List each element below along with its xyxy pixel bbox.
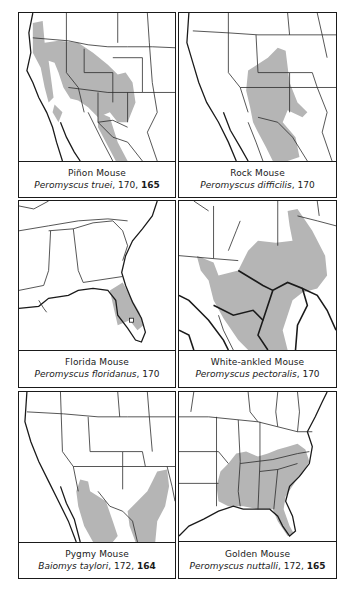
common-name: Pygmy Mouse — [65, 548, 129, 560]
range-map-golden-mouse — [179, 392, 336, 542]
common-name: White-ankled Mouse — [211, 356, 304, 368]
range-map-panel-white-ankled-mouse: White-ankled Mouse Peromyscus pectoralis… — [178, 200, 337, 388]
common-name: Golden Mouse — [225, 548, 290, 560]
text-page-ref: , 170 — [292, 180, 315, 190]
scientific-name: Peromyscus truei — [34, 180, 112, 190]
text-page-ref: , 172, — [278, 561, 307, 571]
scientific-name: Peromyscus floridanus — [35, 369, 137, 379]
range-map-panel-florida-mouse: Florida Mouse Peromyscus floridanus, 170 — [18, 200, 176, 388]
range-map-florida-mouse — [19, 201, 175, 351]
range-map-panel-rock-mouse: Rock Mouse Peromyscus difficilis, 170 — [178, 12, 337, 198]
range-map-pygmy-mouse — [19, 392, 175, 543]
scientific-name-line: Baiomys taylori, 172, 164 — [38, 560, 155, 572]
plate-page-ref: 164 — [137, 561, 156, 571]
plate-page-ref: 165 — [141, 180, 160, 190]
text-page-ref: , 170, — [112, 180, 141, 190]
range-map-rock-mouse — [179, 13, 336, 162]
caption-golden-mouse: Golden Mouse Peromyscus nuttalli, 172, 1… — [179, 541, 336, 578]
scientific-name: Peromyscus nuttalli — [189, 561, 278, 571]
range-map-white-ankled-mouse — [179, 201, 336, 351]
scientific-name-line: Peromyscus truei, 170, 165 — [34, 179, 160, 191]
range-map-panel-pinon-mouse: Piñon Mouse Peromyscus truei, 170, 165 — [18, 12, 176, 198]
text-page-ref: , 170 — [137, 369, 160, 379]
range-map-panel-golden-mouse: Golden Mouse Peromyscus nuttalli, 172, 1… — [178, 391, 337, 579]
range-map-pinon-mouse — [19, 13, 175, 162]
text-page-ref: , 172, — [108, 561, 137, 571]
scientific-name: Peromyscus difficilis — [200, 180, 292, 190]
text-page-ref: , 170 — [297, 369, 320, 379]
caption-rock-mouse: Rock Mouse Peromyscus difficilis, 170 — [179, 160, 336, 197]
common-name: Florida Mouse — [65, 356, 129, 368]
scientific-name-line: Peromyscus floridanus, 170 — [35, 368, 160, 380]
range-map-panel-pygmy-mouse: Pygmy Mouse Baiomys taylori, 172, 164 — [18, 391, 176, 579]
common-name: Rock Mouse — [230, 167, 285, 179]
scientific-name-line: Peromyscus nuttalli, 172, 165 — [189, 560, 325, 572]
scientific-name-line: Peromyscus difficilis, 170 — [200, 179, 314, 191]
caption-pinon-mouse: Piñon Mouse Peromyscus truei, 170, 165 — [19, 160, 175, 197]
common-name: Piñon Mouse — [68, 167, 126, 179]
caption-white-ankled-mouse: White-ankled Mouse Peromyscus pectoralis… — [179, 349, 336, 387]
scientific-name: Peromyscus pectoralis — [195, 369, 296, 379]
scientific-name-line: Peromyscus pectoralis, 170 — [195, 368, 319, 380]
caption-pygmy-mouse: Pygmy Mouse Baiomys taylori, 172, 164 — [19, 541, 175, 578]
plate-page-ref: 165 — [307, 561, 326, 571]
caption-florida-mouse: Florida Mouse Peromyscus floridanus, 170 — [19, 349, 175, 387]
scientific-name: Baiomys taylori — [38, 561, 108, 571]
